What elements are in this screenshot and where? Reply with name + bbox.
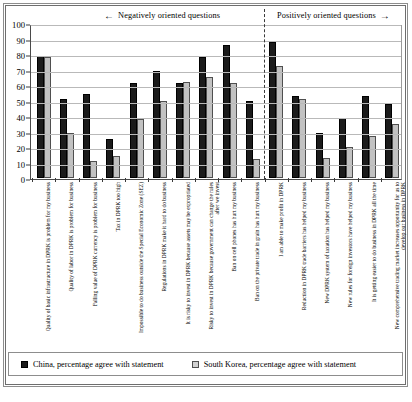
y-axis-tick-label: 0 [21, 175, 25, 185]
chart-legend: China, percentage agree with statement S… [8, 352, 403, 376]
x-axis-category-label: New rules for foreign investors have hel… [347, 182, 353, 340]
legend-swatch-china-icon [21, 361, 28, 368]
gridline [31, 103, 401, 104]
negative-orientation-annotation: ← Negatively oriented questions [104, 11, 220, 21]
x-axis-category-label: Regulations in DPRK make it hard to do b… [161, 182, 167, 340]
gridline [31, 118, 401, 119]
positive-orientation-annotation: Positively oriented questions → [277, 11, 390, 21]
y-axis-tick-label: 60 [16, 82, 25, 92]
orientation-divider [264, 9, 265, 179]
bar-south-korea [113, 156, 120, 178]
right-arrow-icon: → [380, 11, 390, 21]
category-labels: Quality of basic infrastructure in DPRK … [31, 182, 403, 344]
x-axis-category-label: Impossible to do business outside the Sp… [138, 182, 144, 340]
gridline [31, 25, 401, 26]
bar-south-korea [299, 99, 306, 178]
x-axis-category-label: It is risky to invest in DPRK because as… [185, 182, 191, 340]
bar-south-korea [392, 124, 399, 178]
bar-south-korea [206, 77, 213, 178]
bar-south-korea [90, 161, 97, 178]
gridline [31, 41, 401, 42]
x-axis-category-label: Falling value of DPRK currency is proble… [92, 182, 98, 340]
orientation-band: ← Negatively oriented questions Positive… [30, 8, 402, 23]
x-axis-category-label: New DPRK system of taxation has helped m… [324, 182, 330, 340]
bar-china [106, 139, 113, 178]
x-axis-category-label: It is getting easier to do business in D… [371, 182, 377, 340]
bar-china [60, 99, 67, 178]
x-axis-category-label: Tax in DPRK too high [115, 182, 121, 340]
gridline [31, 87, 401, 88]
chart-figure: ← Negatively oriented questions Positive… [0, 0, 412, 402]
bar-china [339, 118, 346, 178]
bar-south-korea [253, 159, 260, 178]
plot-wrapper [30, 25, 402, 180]
bar-china [269, 42, 276, 178]
bar-china [362, 96, 369, 178]
y-axis-tick-label: 50 [16, 98, 25, 108]
bar-china [223, 45, 230, 178]
bar-south-korea [346, 147, 353, 178]
legend-label-china: China, percentage agree with statement [33, 360, 164, 369]
x-axis-category-label: New comprehensive trading market increas… [394, 182, 406, 340]
bar-south-korea [160, 101, 167, 179]
left-arrow-icon: ← [104, 11, 114, 21]
positive-orientation-label: Positively oriented questions [277, 11, 376, 20]
legend-swatch-south-korea-icon [192, 361, 199, 368]
negative-orientation-label: Negatively oriented questions [118, 11, 220, 20]
gridline [31, 165, 401, 166]
bar-china [316, 133, 323, 178]
y-axis-tick-label: 80 [16, 51, 25, 61]
y-axis: 0102030405060708090100 [0, 25, 30, 180]
x-axis-category-label: Risky to invest in DPRK because governme… [208, 182, 220, 340]
bar-south-korea [276, 66, 283, 178]
bar-south-korea [369, 136, 376, 178]
bar-china [292, 96, 299, 178]
y-axis-tick-label: 30 [16, 129, 25, 139]
y-axis-tick-label: 20 [16, 144, 25, 154]
gridline [31, 56, 401, 57]
legend-label-south-korea: South Korea, percentage agree with state… [204, 360, 357, 369]
gridline [31, 72, 401, 73]
bar-south-korea [67, 133, 74, 178]
y-axis-tick-label: 70 [16, 67, 25, 77]
y-axis-tick-label: 100 [12, 20, 25, 30]
plot-area [30, 25, 402, 180]
y-axis-tick-label: 90 [16, 36, 25, 46]
y-axis-tick-label: 10 [16, 160, 25, 170]
bar-china [246, 101, 253, 179]
bar-china [37, 56, 44, 178]
gridline [31, 134, 401, 135]
x-axis-category-label: Quality of basic infrastructure in DPRK … [45, 182, 51, 340]
legend-item-china: China, percentage agree with statement [21, 360, 164, 369]
legend-item-south-korea: South Korea, percentage agree with state… [192, 360, 357, 369]
x-axis-category-label: Reduction in DPRK trade barriers has hel… [301, 182, 307, 340]
x-axis-category-label: Quality of labor in DPRK is problem for … [68, 182, 74, 340]
bar-south-korea [323, 158, 330, 178]
y-axis-tick-label: 40 [16, 113, 25, 123]
x-axis-category-label: I am able to make profit in DPRK [278, 182, 284, 340]
bar-china [385, 104, 392, 178]
gridline [31, 149, 401, 150]
x-axis-category-label: Ban on the private trade in grain has hu… [254, 182, 260, 340]
x-axis-category-label: Ban on cell phones has hurt my business [231, 182, 237, 340]
